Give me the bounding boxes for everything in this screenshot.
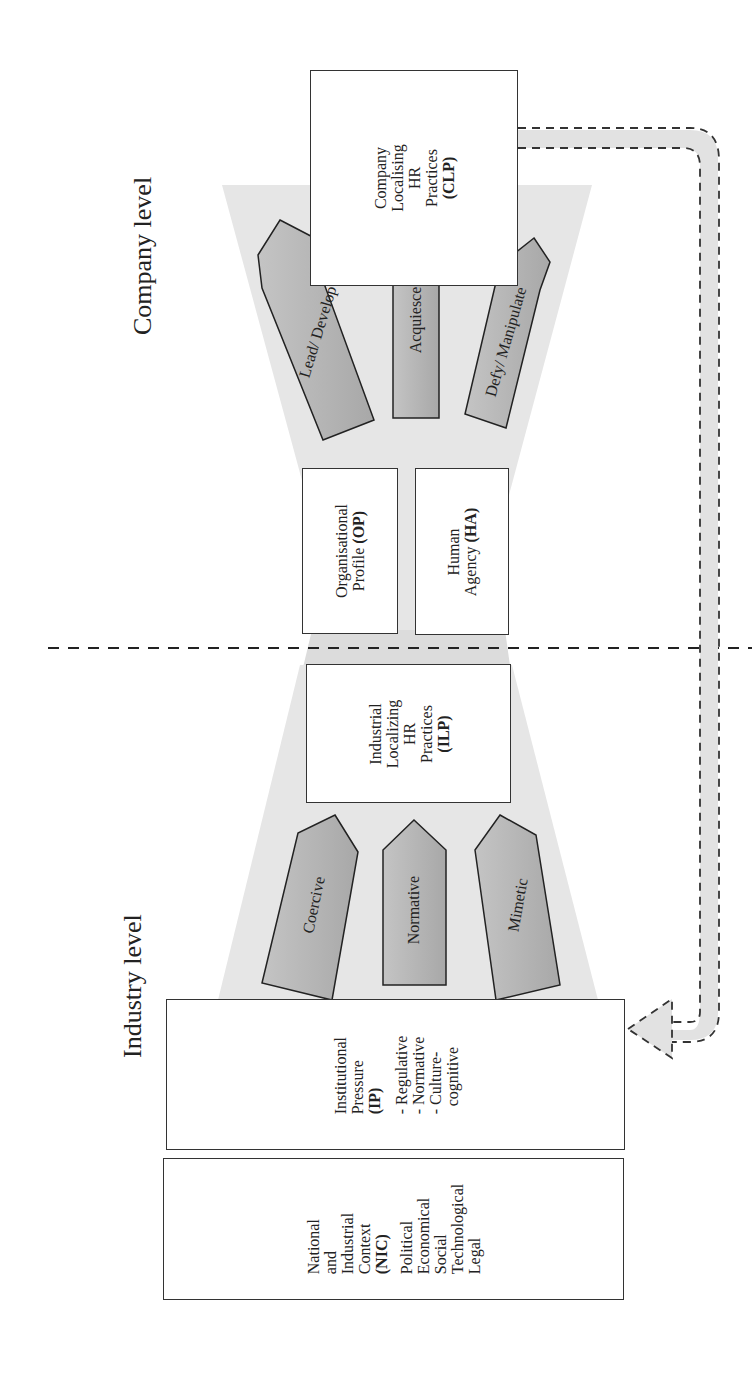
nic-box: National and Industrial Context (NIC) Po… <box>163 1158 624 1300</box>
label-acquiesce: Acquiesce <box>407 287 425 354</box>
label-normative: Normative <box>405 876 423 944</box>
ha-box: Human Agency (HA) <box>415 468 509 635</box>
clp-box: Company Localising HR Practices (CLP) <box>310 70 518 286</box>
industry-level-title: Industry level <box>118 914 148 1058</box>
ip-box: Institutional Pressure (IP) - Regulative… <box>166 999 625 1150</box>
op-box: Organisational Profile (OP) <box>302 468 398 634</box>
ilp-box: Industrial Localizing HR Practices (ILP) <box>306 664 511 803</box>
feedback-arrowhead <box>628 999 672 1058</box>
company-level-title: Company level <box>128 177 158 335</box>
